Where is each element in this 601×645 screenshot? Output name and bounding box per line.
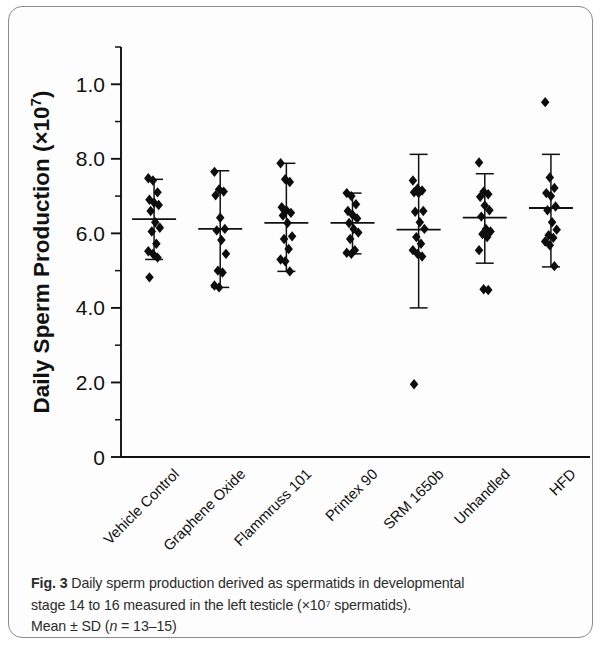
x-category-label: Printex 90 (322, 466, 380, 524)
caption-line-1: Fig. 3 Daily sperm production derived as… (31, 573, 579, 595)
data-point (541, 97, 550, 107)
figure-number: Fig. 3 (31, 575, 67, 591)
data-point (217, 235, 226, 245)
series-hfd (529, 97, 573, 271)
series-flammruss-101 (264, 158, 308, 276)
x-category-label: HFD (546, 466, 579, 499)
data-point (410, 379, 419, 389)
y-tick-label: 0 (93, 446, 105, 469)
caption-mean-prefix: Mean ± SD ( (31, 618, 109, 634)
data-point (210, 167, 219, 177)
plot-area: 02.04.06.08.01.0 Daily Sperm Production … (9, 7, 594, 567)
series-srm-1650b (397, 154, 441, 389)
scatter-plot: 02.04.06.08.01.0 Daily Sperm Production … (9, 7, 594, 567)
caption-n-suffix: = 13–15) (117, 618, 176, 634)
caption-line-2: stage 14 to 16 measured in the left test… (31, 595, 579, 617)
data-series-group (132, 97, 573, 390)
data-point (551, 201, 560, 211)
y-tick-label: 4.0 (76, 296, 105, 319)
series-graphene-oxide (198, 167, 242, 293)
y-axis-title: Daily Sperm Production (×107) (27, 91, 54, 414)
series-vehicle-control (132, 173, 176, 283)
data-point (145, 272, 154, 282)
data-point (546, 172, 555, 182)
x-category-label: SRM 1650b (380, 466, 447, 533)
data-point (475, 157, 484, 167)
y-tick-label: 6.0 (76, 222, 105, 245)
caption-text-2: stage 14 to 16 measured in the left test… (31, 597, 411, 613)
y-tick-label: 2.0 (76, 371, 105, 394)
figure-card: 02.04.06.08.01.0 Daily Sperm Production … (8, 6, 593, 638)
y-tick-group: 02.04.06.08.01.0 (76, 47, 121, 469)
figure-caption: Fig. 3 Daily sperm production derived as… (31, 573, 579, 638)
category-label-group: Vehicle ControlGraphene OxideFlammruss 1… (100, 466, 579, 554)
data-point (475, 245, 484, 255)
caption-line-3: Mean ± SD (n = 13–15) (31, 616, 579, 638)
series-printex-90 (331, 188, 375, 259)
data-point (409, 175, 418, 185)
y-tick-label: 8.0 (76, 147, 105, 170)
data-point (548, 217, 557, 227)
data-point (222, 249, 231, 259)
y-tick-label: 1.0 (76, 73, 105, 96)
data-point (216, 213, 225, 223)
x-category-label: Unhandled (451, 466, 513, 528)
series-unhandled (463, 157, 507, 295)
data-point (288, 231, 297, 241)
data-point (276, 158, 285, 168)
data-point (283, 218, 292, 228)
data-point (419, 206, 428, 216)
caption-text-1: Daily sperm production derived as sperma… (71, 575, 464, 591)
y-axis-title-text: Daily Sperm Production (×107) (27, 91, 54, 414)
data-point (221, 224, 230, 234)
